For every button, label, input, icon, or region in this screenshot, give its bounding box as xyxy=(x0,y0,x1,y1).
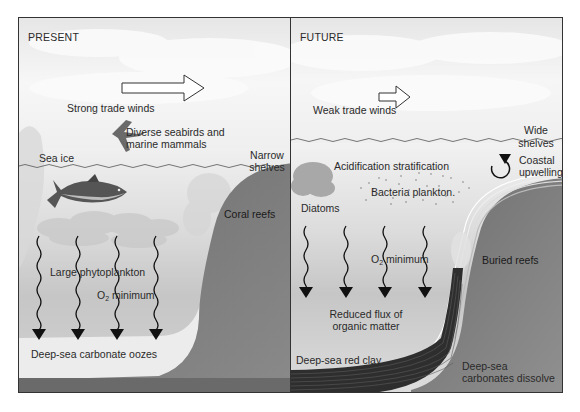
o2-minimum-label: O2 minimum xyxy=(97,289,155,306)
coastal-upwelling-label-line2: upwelling xyxy=(519,166,563,179)
large-phytoplankton-label: Large phytoplankton xyxy=(50,266,145,279)
o2-minimum-label: O2 minimum xyxy=(371,253,429,270)
present-title: PRESENT xyxy=(28,31,79,44)
deep-sea-red-clay-label: Deep-sea red clay xyxy=(296,354,381,367)
wide-shelves-label-line2: shelves xyxy=(511,137,561,150)
diatoms-cluster xyxy=(291,162,335,197)
narrow-shelves-label-line2: shelves xyxy=(243,161,291,174)
seabirds-label-line2: marine mammals xyxy=(126,138,207,151)
weak-trade-winds-label: Weak trade winds xyxy=(313,104,396,117)
wide-shelves-label-line1: Wide xyxy=(511,124,561,137)
carbonate-oozes-label: Deep-sea carbonate oozes xyxy=(31,348,157,361)
o2-minimum-text: minimum xyxy=(383,253,429,265)
o2-minimum-text: minimum xyxy=(109,289,155,301)
reduced-flux-label-line2: organic matter xyxy=(311,320,421,333)
diatoms-label: Diatoms xyxy=(301,202,340,215)
buried-reef-patch xyxy=(451,232,471,268)
o2-symbol: O xyxy=(97,289,105,301)
buried-reefs-label: Buried reefs xyxy=(482,254,539,267)
strong-trade-winds-label: Strong trade winds xyxy=(67,102,155,115)
carbonates-dissolve-label-line2: carbonates dissolve xyxy=(462,372,555,385)
seabirds-label-line1: Diverse seabirds and xyxy=(126,126,225,139)
reduced-flux-label-line1: Reduced flux of xyxy=(311,308,421,321)
carbonates-dissolve-label-line1: Deep-sea xyxy=(462,360,508,373)
coastal-upwelling-label-line1: Coastal xyxy=(519,154,555,167)
narrow-shelves-label-line1: Narrow xyxy=(243,149,291,162)
seafloor-band xyxy=(19,378,292,393)
bacteria-plankton-label: Bacteria plankton. xyxy=(371,186,455,199)
present-panel: PRESENT Strong trade winds Diverse seabi… xyxy=(18,17,292,393)
coral-reefs-label: Coral reefs xyxy=(224,208,275,221)
future-title: FUTURE xyxy=(300,31,344,44)
o2-symbol: O xyxy=(371,253,379,265)
sea-ice-label: Sea ice xyxy=(39,152,74,165)
present-scene xyxy=(19,18,292,393)
future-panel: FUTURE Weak trade winds Wide shelves Aci… xyxy=(290,17,563,393)
acidification-stratification-label: Acidification stratification xyxy=(334,160,449,173)
